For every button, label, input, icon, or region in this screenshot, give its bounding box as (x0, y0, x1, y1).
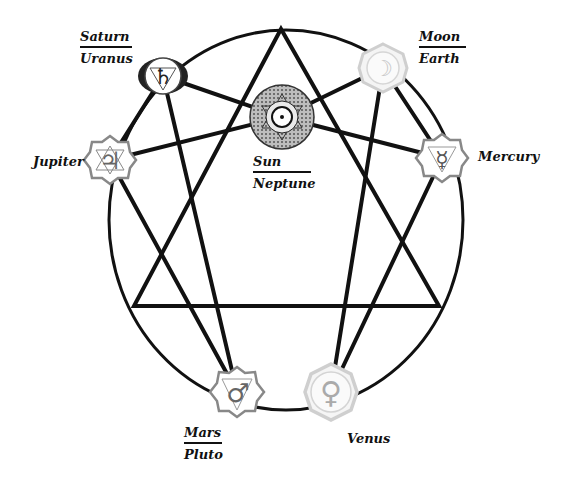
line-mercury-venus (331, 158, 442, 392)
pluto-label: Pluto (184, 448, 222, 461)
moon-label: Moon (419, 30, 466, 43)
fraction-bar (419, 46, 466, 48)
line-moon-venus (331, 68, 383, 392)
mars-label: Mars (184, 426, 222, 439)
saturn-uranus-label: Saturn Uranus (80, 30, 132, 65)
sun-neptune-label: Sun Neptune (253, 155, 311, 190)
jupiter-chakra-icon: ♃ (84, 136, 136, 184)
mercury-chakra-icon: ☿ (416, 134, 468, 182)
mars-glyph: ♂ (226, 378, 249, 408)
venus-chakra-icon: ♀ (305, 364, 357, 420)
mars-chakra-icon: ♂ (210, 367, 264, 417)
saturn-label: Saturn (80, 30, 132, 43)
neptune-label: Neptune (253, 177, 311, 190)
line-jupiter-mars (110, 160, 237, 392)
mars-pluto-label: Mars Pluto (184, 426, 222, 461)
moon-chakra-icon: ☽ (359, 44, 407, 92)
mercury-label: Mercury (478, 150, 539, 163)
mercury-glyph: ☿ (435, 147, 449, 172)
moon-earth-label: Moon Earth (419, 30, 466, 65)
uranus-label: Uranus (80, 52, 132, 65)
jupiter-glyph: ♃ (99, 147, 121, 175)
fraction-bar (80, 46, 132, 48)
saturn-glyph: ♄ (153, 64, 173, 89)
saturn-chakra-icon: ♄ (138, 58, 188, 94)
sun-chakra-icon (250, 85, 314, 149)
sun-label: Sun (253, 155, 311, 168)
jupiter-label: Jupiter (33, 155, 84, 168)
venus-label: Venus (347, 432, 390, 445)
fraction-bar (253, 171, 311, 173)
fraction-bar (184, 442, 222, 444)
enneagram-diagram: ♄ ☽ ♃ ☿ ♂ (0, 0, 562, 486)
moon-glyph: ☽ (373, 56, 393, 81)
venus-glyph: ♀ (320, 375, 342, 410)
earth-label: Earth (419, 52, 466, 65)
